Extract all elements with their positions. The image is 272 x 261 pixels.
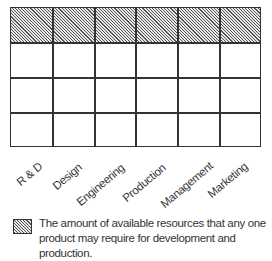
legend-text: The amount of available resources that a… [39,216,271,261]
column-divider [177,8,179,146]
legend-hatch-swatch [13,219,32,234]
column-divider [94,8,96,146]
column-label-management: Management [158,160,215,210]
column-divider [219,8,221,146]
column-label-design: Design [50,161,84,192]
column-divider [135,8,137,146]
column-label-rd: R & D [14,160,44,188]
column-divider [52,8,54,146]
resource-grid [10,7,261,147]
